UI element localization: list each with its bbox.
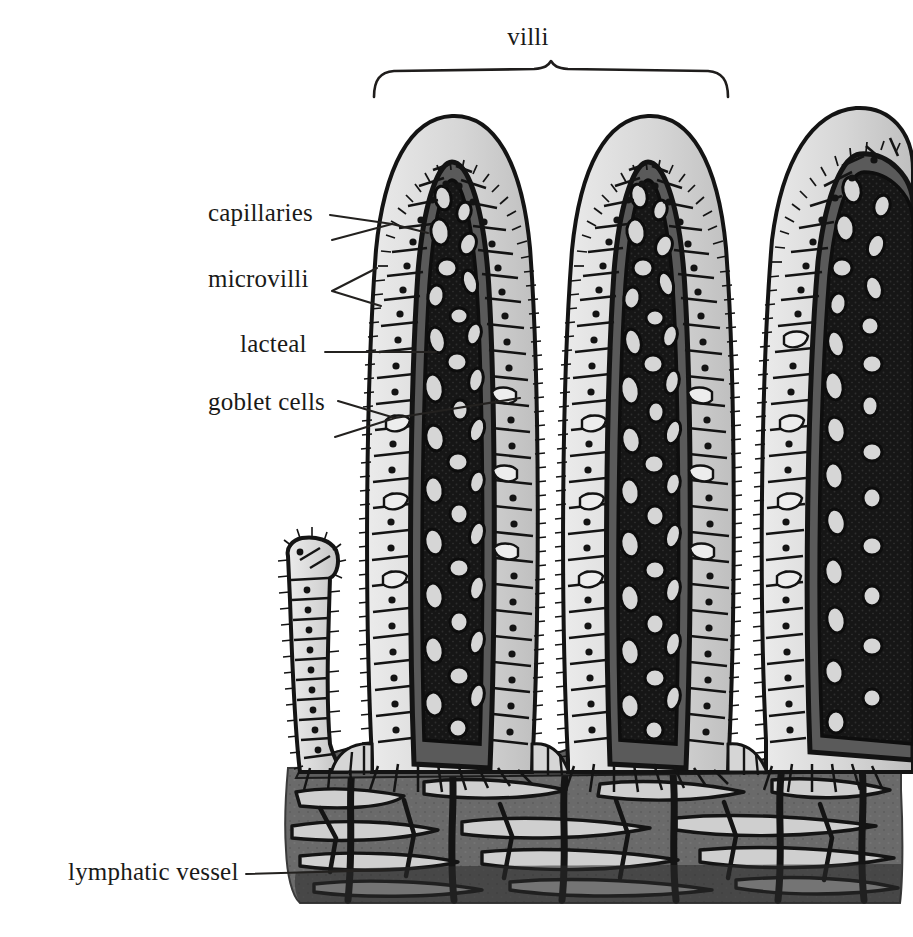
villus-1: [359, 116, 546, 772]
submucosa-layer: [285, 762, 902, 903]
label-goblet-cells: goblet cells: [208, 388, 325, 415]
label-microvilli: microvilli: [208, 265, 309, 292]
villus-3: [753, 108, 913, 772]
villi-illustration: villi capillaries microvilli lacteal gob…: [0, 0, 913, 937]
villus-partial-left: [278, 527, 346, 772]
villus-2: [555, 116, 742, 772]
label-lacteal: lacteal: [240, 330, 307, 357]
villi-brace: [374, 61, 728, 97]
figure-canvas: villi capillaries microvilli lacteal gob…: [0, 0, 913, 937]
label-villi: villi: [507, 23, 548, 50]
label-lymphatic-vessel: lymphatic vessel: [68, 858, 239, 885]
label-capillaries: capillaries: [208, 199, 313, 226]
